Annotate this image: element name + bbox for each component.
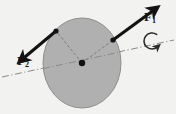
force-label-f1-symbol: F	[144, 9, 152, 24]
force-label-f1: F1	[144, 10, 156, 23]
force-label-f1-subscript: 1	[152, 16, 156, 25]
application-point-f1	[110, 37, 115, 42]
force-label-f2-subscript: 2	[25, 60, 29, 69]
center-of-rotation-dot	[79, 60, 85, 66]
force-label-f2-symbol: F	[17, 53, 25, 68]
force-label-f2: F2	[17, 54, 29, 67]
application-point-f2	[53, 28, 58, 33]
physics-diagram-figure: F1 F2	[0, 0, 176, 114]
